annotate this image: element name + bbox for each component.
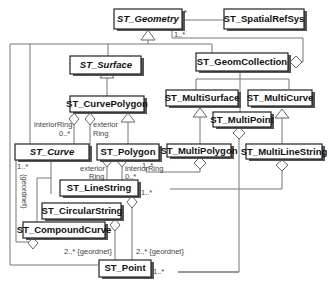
- class-multisurface[interactable]: ST_MultiSurface: [165, 90, 241, 108]
- role-label: interiorRing: [34, 120, 72, 129]
- multiplicity-label: 0..*: [125, 172, 136, 181]
- class-multilinestring[interactable]: ST_MultiLineString: [241, 144, 328, 161]
- class-name: ST_CurvePolygon: [66, 98, 148, 109]
- class-multipoint[interactable]: ST_MultiPoint: [210, 112, 274, 129]
- class-polygon[interactable]: ST_Polygon: [97, 144, 162, 162]
- ordered-multiplicity-label: 2..* {geordnet}: [136, 247, 184, 256]
- multiplicity-label: 0..*: [59, 129, 70, 138]
- class-name: ST_LineString: [67, 182, 132, 193]
- class-circularstring[interactable]: ST_CircularString: [42, 203, 124, 221]
- class-linestring[interactable]: ST_LineString: [60, 180, 141, 198]
- class-name: ST_SpatialRefSys: [224, 13, 305, 24]
- class-geometry[interactable]: ST_Geometry: [114, 9, 185, 31]
- inherit-arrow-multisurface: [193, 108, 207, 117]
- diamond-geomcollection: [290, 56, 302, 68]
- class-multipolygon[interactable]: ST_MultiPolygon: [160, 144, 237, 159]
- multiplicity-label: 1..*: [174, 30, 185, 39]
- multiplicity-label: 1..*: [141, 188, 152, 197]
- class-name: ST_Geometry: [117, 13, 179, 24]
- class-name: ST_Surface: [80, 59, 133, 70]
- class-name: ST_MultiCurve: [247, 92, 314, 103]
- ordered-constraint-label: {geordnet}: [20, 174, 29, 209]
- diamond-multilinestring: [276, 160, 288, 171]
- class-curvepolygon[interactable]: ST_CurvePolygon: [66, 96, 148, 114]
- role-label: Ring: [93, 129, 108, 138]
- class-geomcollection[interactable]: ST_GeomCollection: [196, 53, 291, 73]
- class-name: ST_MultiLineString: [241, 146, 328, 157]
- inherit-arrow-curvepolygon: [121, 113, 135, 122]
- class-name: ST_MultiPoint: [210, 114, 274, 125]
- class-curve[interactable]: ST_Curve: [15, 144, 92, 162]
- class-name: ST_Curve: [30, 146, 75, 157]
- class-name: ST_Polygon: [101, 146, 156, 157]
- multiplicity-label: 1..*: [153, 267, 164, 276]
- class-surface[interactable]: ST_Surface: [70, 56, 144, 76]
- class-name: ST_MultiPolygon: [160, 145, 237, 156]
- multiplicity-label: *: [184, 8, 187, 17]
- role-label: exterior: [93, 120, 119, 129]
- ordered-multiplicity-label: 2..* {geordnet}: [64, 247, 112, 256]
- class-point[interactable]: ST_Point: [99, 260, 154, 279]
- class-name: ST_CircularString: [42, 205, 123, 216]
- uml-class-diagram: ST_Geometry ST_SpatialRefSys ST_Surface …: [0, 0, 329, 282]
- class-compoundcurve[interactable]: ST_CompoundCurve: [17, 222, 111, 240]
- inherit-arrow-multicurve: [275, 109, 289, 118]
- class-name: ST_MultiSurface: [165, 92, 239, 103]
- role-label: Ring: [89, 172, 104, 181]
- class-spatialrefsys[interactable]: ST_SpatialRefSys: [224, 9, 307, 31]
- class-multicurve[interactable]: ST_MultiCurve: [247, 90, 315, 108]
- class-name: ST_GeomCollection: [197, 56, 287, 67]
- class-name: ST_Point: [104, 262, 146, 273]
- inherit-arrow-geometry: [141, 30, 155, 40]
- multiplicity-label: 1..*: [17, 162, 28, 171]
- class-name: ST_CompoundCurve: [17, 224, 111, 235]
